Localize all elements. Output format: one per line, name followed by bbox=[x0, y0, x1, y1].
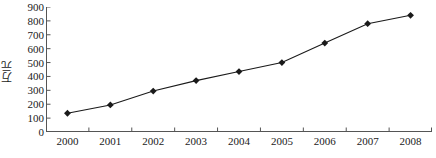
y-tick-label: 500 bbox=[10, 58, 44, 68]
y-tick-label: 200 bbox=[10, 99, 44, 109]
x-tick-label: 2005 bbox=[259, 135, 305, 148]
data-point-markers bbox=[64, 12, 414, 117]
data-point-marker bbox=[107, 102, 114, 109]
y-tick-label: 900 bbox=[10, 2, 44, 12]
y-tick-label: 800 bbox=[10, 16, 44, 26]
x-tick-label: 2004 bbox=[216, 135, 262, 148]
y-tick-label: 0 bbox=[10, 127, 44, 137]
plot-area bbox=[46, 7, 432, 132]
data-point-marker bbox=[150, 88, 157, 95]
data-point-marker bbox=[193, 77, 200, 84]
y-tick-label: 700 bbox=[10, 30, 44, 40]
x-tick-label: 2003 bbox=[173, 135, 219, 148]
data-point-marker bbox=[236, 68, 243, 75]
data-point-marker bbox=[364, 20, 371, 27]
x-axis bbox=[46, 128, 432, 132]
y-axis-tick-labels: 0100200300400500600700800900 bbox=[10, 0, 44, 158]
x-tick-label: 2001 bbox=[87, 135, 133, 148]
y-tick-label: 100 bbox=[10, 113, 44, 123]
x-tick-label: 2002 bbox=[130, 135, 176, 148]
data-point-marker bbox=[321, 40, 328, 47]
y-tick-label: 600 bbox=[10, 44, 44, 54]
y-tick-label: 300 bbox=[10, 85, 44, 95]
data-point-marker bbox=[64, 110, 71, 117]
plot-svg bbox=[46, 7, 432, 132]
y-tick-label: 400 bbox=[10, 71, 44, 81]
x-tick-label: 2007 bbox=[345, 135, 391, 148]
x-tick-label: 2006 bbox=[302, 135, 348, 148]
x-tick-label: 2008 bbox=[388, 135, 434, 148]
data-point-marker bbox=[407, 12, 414, 19]
x-axis-tick-labels: 200020012002200320042005200620072008 bbox=[46, 135, 432, 151]
data-line bbox=[67, 15, 410, 113]
x-tick-label: 2000 bbox=[44, 135, 90, 148]
line-chart: 万元 0100200300400500600700800900 20002001… bbox=[0, 0, 436, 158]
y-axis bbox=[47, 7, 51, 132]
data-point-marker bbox=[278, 59, 285, 66]
